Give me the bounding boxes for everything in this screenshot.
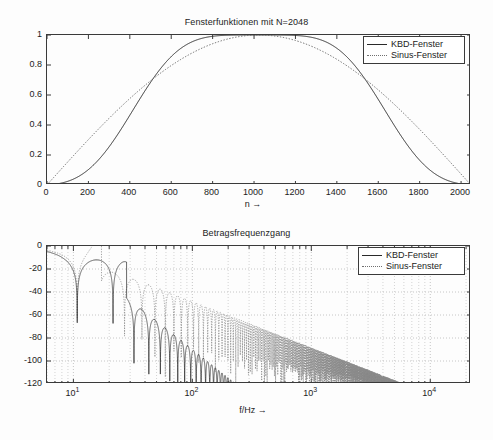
legend-entry-kbd: KBD-Fenster	[362, 250, 460, 261]
magnitude-response-plot: Betragsfrequenzgang 0 -20 -40 -60 -80 -1…	[0, 215, 493, 440]
xtick-label: 600	[163, 187, 178, 197]
legend-label: KBD-Fenster	[386, 250, 438, 261]
solid-line-icon	[362, 251, 382, 260]
legend-entry-sinus: Sinus-Fenster	[367, 50, 460, 61]
xtick-label: 2000	[450, 187, 470, 197]
xtick-label: 1600	[367, 187, 387, 197]
magnitude-response-title: Betragsfrequenzgang	[0, 228, 493, 238]
ytick-label: 0	[12, 179, 42, 189]
ytick-label: -40	[6, 286, 42, 296]
xtick-label: 1000	[243, 187, 263, 197]
window-functions-plot: Fensterfunktionen mit N=2048 1 0.8 0.6 0…	[0, 0, 493, 215]
xtick-label: 101	[65, 388, 79, 398]
ytick-label: 0.8	[12, 59, 42, 69]
solid-line-icon	[367, 40, 387, 49]
dotted-line-icon	[362, 262, 382, 271]
xtick-label: 400	[121, 187, 136, 197]
ytick-label: -120	[6, 378, 42, 388]
ytick-label: -60	[6, 309, 42, 319]
legend-label: Sinus-Fenster	[391, 50, 447, 61]
ytick-label: 0.2	[12, 149, 42, 159]
xtick-label: 102	[184, 388, 198, 398]
ytick-label: 0	[6, 240, 42, 250]
xtick-label: 103	[303, 388, 317, 398]
ytick-label: -20	[6, 263, 42, 273]
window-functions-legend[interactable]: KBD-Fenster Sinus-Fenster	[363, 36, 465, 64]
window-functions-title: Fensterfunktionen mit N=2048	[0, 17, 493, 27]
xtick-label: 1400	[326, 187, 346, 197]
ytick-label: 1	[12, 29, 42, 39]
ytick-label: -100	[6, 355, 42, 365]
legend-entry-kbd: KBD-Fenster	[367, 39, 460, 50]
magnitude-response-legend[interactable]: KBD-Fenster Sinus-Fenster	[358, 247, 465, 275]
ytick-label: 0.6	[12, 89, 42, 99]
legend-label: KBD-Fenster	[391, 39, 443, 50]
dotted-line-icon	[367, 51, 387, 60]
ytick-label: 0.4	[12, 119, 42, 129]
ytick-label: -80	[6, 332, 42, 342]
xtick-label: 800	[204, 187, 219, 197]
xtick-label: 104	[422, 388, 436, 398]
xtick-label: 0	[43, 187, 48, 197]
legend-label: Sinus-Fenster	[386, 261, 442, 272]
matlab-figure: Fensterfunktionen mit N=2048 1 0.8 0.6 0…	[0, 0, 493, 440]
x-axis-label: n →	[245, 199, 262, 209]
x-axis-label: f/Hz →	[239, 405, 267, 415]
xtick-label: 200	[80, 187, 95, 197]
xtick-label: 1800	[409, 187, 429, 197]
legend-entry-sinus: Sinus-Fenster	[362, 261, 460, 272]
xtick-label: 1200	[284, 187, 304, 197]
